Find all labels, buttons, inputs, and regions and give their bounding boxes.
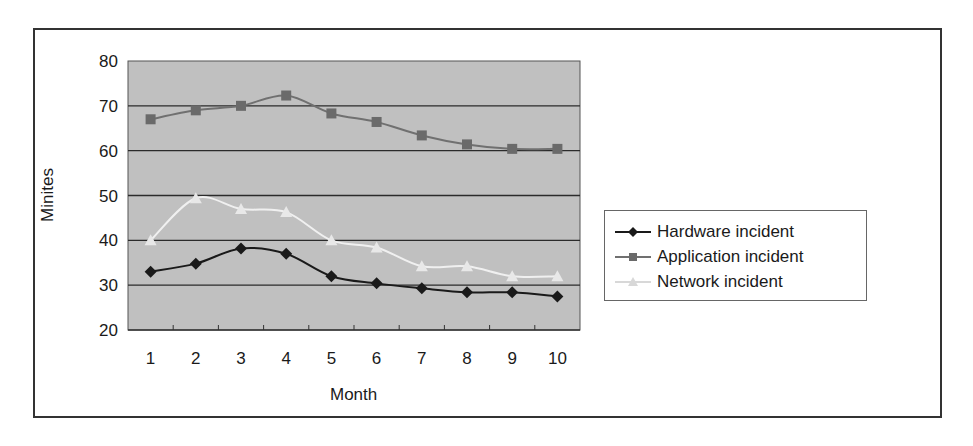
square-marker-icon: [417, 130, 427, 140]
legend-label: Application incident: [657, 247, 803, 267]
legend-label: Network incident: [657, 272, 783, 292]
square-marker-icon: [236, 101, 246, 111]
x-axis-label: Month: [330, 385, 377, 405]
square-marker-icon: [507, 144, 517, 154]
x-tick-label: 1: [146, 349, 155, 368]
x-tick-label: 4: [281, 349, 290, 368]
square-marker-icon: [326, 108, 336, 118]
y-tick-label: 50: [99, 187, 118, 206]
triangle-marker-icon: [613, 272, 653, 292]
x-tick-label: 7: [417, 349, 426, 368]
y-tick-label: 60: [99, 142, 118, 161]
legend-item-application: Application incident: [613, 244, 803, 270]
legend: Hardware incident Application incident N…: [604, 210, 867, 301]
square-marker-icon: [372, 117, 382, 127]
y-tick-label: 20: [99, 321, 118, 340]
x-tick-label: 8: [462, 349, 471, 368]
square-marker-icon: [191, 105, 201, 115]
y-tick-label: 30: [99, 276, 118, 295]
x-tick-label: 9: [507, 349, 516, 368]
y-axis-label: Minites: [38, 168, 58, 222]
x-tick-label: 5: [327, 349, 336, 368]
y-tick-label: 40: [99, 231, 118, 250]
square-marker-icon: [146, 114, 156, 124]
y-tick-label: 70: [99, 97, 118, 116]
x-tick-label: 3: [236, 349, 245, 368]
diamond-marker-icon: [613, 222, 653, 242]
legend-item-hardware: Hardware incident: [613, 219, 794, 245]
x-tick-label: 6: [372, 349, 381, 368]
legend-item-network: Network incident: [613, 269, 783, 295]
legend-label: Hardware incident: [657, 222, 794, 242]
x-tick-label: 2: [191, 349, 200, 368]
square-marker-icon: [462, 139, 472, 149]
square-marker-icon: [613, 247, 653, 267]
square-marker-icon: [281, 91, 291, 101]
square-marker-icon: [552, 144, 562, 154]
y-tick-label: 80: [99, 52, 118, 71]
x-tick-label: 10: [548, 349, 567, 368]
